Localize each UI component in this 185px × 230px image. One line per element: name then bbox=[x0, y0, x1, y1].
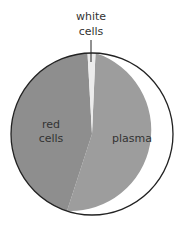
label-white-line2: cells bbox=[79, 25, 104, 38]
label-plasma: plasma bbox=[112, 132, 152, 145]
label-red-line2: cells bbox=[39, 132, 64, 145]
label-white-line1: white bbox=[76, 10, 106, 23]
pie-chart: white cells red cells plasma bbox=[0, 0, 185, 230]
label-red-line1: red bbox=[42, 118, 60, 131]
